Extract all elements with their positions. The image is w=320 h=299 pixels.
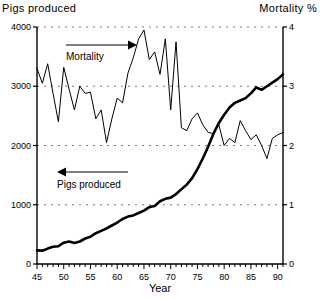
x-tick-label: 45: [32, 272, 42, 282]
x-tick-label: 75: [192, 272, 202, 282]
series-line-pigs-produced: [37, 74, 283, 250]
arrow-left-head-icon: [57, 168, 66, 177]
y2-tick-label: 1: [289, 200, 294, 210]
x-tick-label: 85: [246, 272, 256, 282]
y-tick-label: 2000: [11, 141, 31, 151]
annotation-mortality: Mortality: [66, 41, 137, 63]
x-axis-title: Year: [149, 282, 172, 294]
x-tick-label: 70: [166, 272, 176, 282]
x-tick-label: 80: [219, 272, 229, 282]
x-tick-label: 60: [112, 272, 122, 282]
x-axis: 45505560657075808590: [32, 264, 283, 282]
annotation-label-mortality: Mortality: [66, 51, 104, 62]
y2-tick-label: 2: [289, 141, 294, 151]
y2-tick-label: 4: [289, 22, 294, 32]
x-tick-label: 55: [85, 272, 95, 282]
y2-tick-label: 3: [289, 81, 294, 91]
y-tick-label: 3000: [11, 81, 31, 91]
y-tick-label: 4000: [11, 22, 31, 32]
y-tick-label: 1000: [11, 200, 31, 210]
annotation-pigs-produced: Pigs produced: [57, 168, 128, 191]
right-axis-title: Mortality %: [259, 2, 317, 14]
x-tick-label: 90: [273, 272, 283, 282]
y2-tick-label: 0: [289, 259, 294, 269]
x-tick-label: 65: [139, 272, 149, 282]
x-tick-label: 50: [59, 272, 69, 282]
left-axis: 01000200030004000: [11, 22, 37, 269]
dual-axis-line-plot: 01000200030004000 01234 4550556065707580…: [0, 0, 320, 299]
chart-figure: Pigs produced Mortality % 01000200030004…: [0, 0, 320, 299]
annotation-label-pigs-produced: Pigs produced: [57, 179, 121, 190]
left-axis-title: Pigs produced: [2, 2, 76, 14]
y-tick-label: 0: [26, 259, 31, 269]
right-axis: 01234: [283, 22, 294, 269]
series-line-mortality: [37, 30, 283, 159]
